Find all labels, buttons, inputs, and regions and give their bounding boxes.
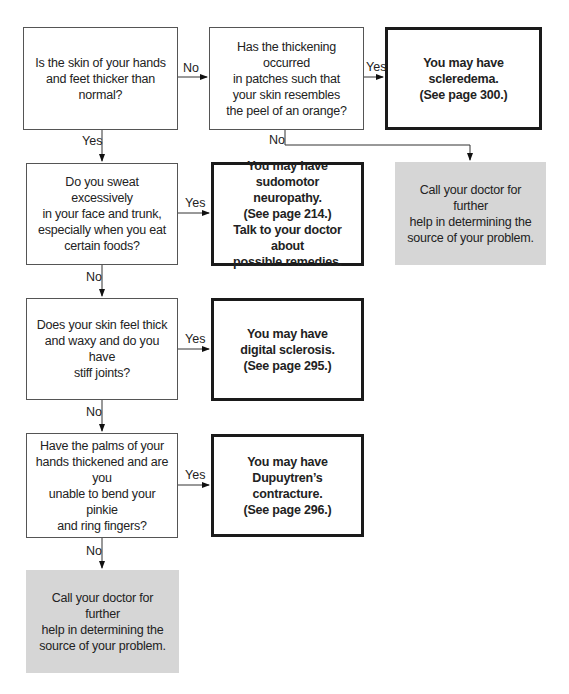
edge-label-q2-yes: Yes (366, 60, 386, 74)
edge-label-q5-yes: Yes (185, 468, 205, 482)
edge-label-q3-no: No (86, 270, 102, 284)
edge-label-q5-no: No (86, 544, 102, 558)
edge-label-q3-yes: Yes (185, 196, 205, 210)
question-waxy-skin: Does your skin feel thick and waxy and d… (26, 298, 178, 400)
terminal-call-doctor-bottom: Call your doctor for further help in det… (26, 570, 179, 673)
edge-label-q1-no: No (183, 61, 199, 75)
edge-label-q4-yes: Yes (185, 332, 205, 346)
question-sweating: Do you sweat excessively in your face an… (26, 163, 178, 265)
result-dupuytrens-contracture: You may have Dupuytren’s contracture. (S… (211, 434, 364, 537)
result-sudomotor-neuropathy: You may have sudomotor neuropathy. (See … (211, 162, 364, 266)
edge-label-q1-yes: Yes (82, 134, 102, 148)
edge-label-q4-no: No (86, 405, 102, 419)
question-orange-peel: Has the thickening occurred in patches s… (209, 27, 364, 130)
result-scleredema: You may have scleredema. (See page 300.) (385, 27, 542, 130)
terminal-call-doctor-top: Call your doctor for further help in det… (395, 162, 546, 265)
question-palms-thickened: Have the palms of your hands thickened a… (26, 433, 178, 538)
question-thicker-skin: Is the skin of your hands and feet thick… (23, 27, 178, 130)
edge-label-q2-no: No (269, 133, 285, 147)
result-digital-sclerosis: You may have digital sclerosis. (See pag… (211, 298, 364, 401)
